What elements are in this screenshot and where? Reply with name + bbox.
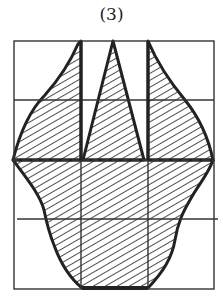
shaded-region <box>13 41 213 288</box>
lower-body <box>13 160 213 288</box>
hatched-shape-diagram <box>0 0 223 302</box>
